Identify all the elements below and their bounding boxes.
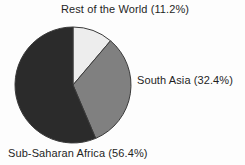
pie-slice-group bbox=[15, 27, 131, 143]
pie-label-south-asia: South Asia (32.4%) bbox=[137, 74, 233, 87]
pie-label-sub-saharan-africa: Sub-Saharan Africa (56.4%) bbox=[8, 147, 148, 160]
pie-label-rest-of-the-world: Rest of the World (11.2%) bbox=[61, 3, 189, 16]
pie-chart-figure: Rest of the World (11.2%) South Asia (32… bbox=[0, 0, 245, 165]
